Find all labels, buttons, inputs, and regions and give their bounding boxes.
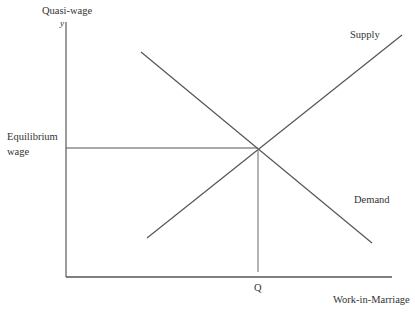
supply-label: Supply [350,29,380,41]
supply-curve [147,35,402,238]
y-axis-symbol: y [60,17,64,29]
demand-label: Demand [354,194,390,206]
equilibrium-label-line1: Equilibrium [7,131,58,143]
quantity-label: Q [254,282,262,294]
y-axis-label: Quasi-wage [42,5,92,17]
equilibrium-label-line2: wage [7,146,29,158]
x-axis-label: Work-in-Marriage [333,294,410,306]
supply-demand-diagram [0,0,415,314]
